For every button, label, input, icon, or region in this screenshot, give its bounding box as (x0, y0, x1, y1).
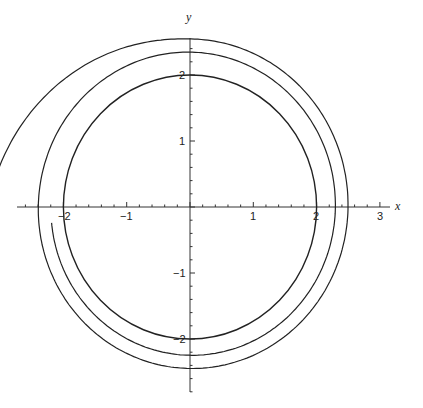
x-tick-label: 2 (313, 210, 319, 222)
y-tick-label: 2 (179, 69, 185, 81)
plot-canvas (0, 0, 423, 408)
spiral-trajectory (0, 39, 348, 369)
y-axis-label: y (186, 10, 191, 25)
x-tick-label: −1 (120, 210, 133, 222)
x-axis-label: x (395, 199, 400, 214)
x-tick-label: 1 (250, 210, 256, 222)
x-tick-label: −2 (58, 210, 71, 222)
phase-plot: x y −2 −1 1 2 3 2 1 −1 −2 (0, 0, 423, 408)
x-tick-label: 3 (377, 210, 383, 222)
y-tick-label: 1 (179, 135, 185, 147)
y-tick-label: −2 (173, 333, 186, 345)
y-tick-label: −1 (173, 267, 186, 279)
